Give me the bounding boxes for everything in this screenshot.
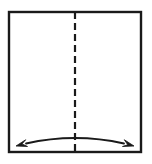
fold-diagram-figure: Paper fold diagram Square sheet with ver… (0, 0, 152, 164)
diagram-canvas (0, 0, 152, 164)
